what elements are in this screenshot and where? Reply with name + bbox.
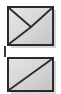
icon-canvas: Two stacked gray squares: the upper one …	[0, 0, 61, 94]
shape-pair-graphic	[0, 0, 61, 94]
